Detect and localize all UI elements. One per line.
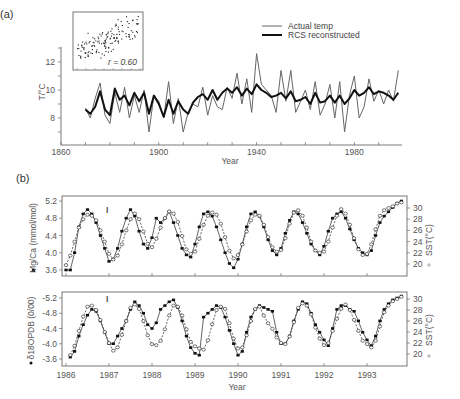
scatter-point: [137, 19, 138, 20]
data-point-filled: [361, 331, 364, 334]
data-point-open: [202, 348, 206, 351]
scatter-point: [129, 23, 130, 24]
data-point-filled: [82, 323, 85, 326]
data-point-filled: [357, 320, 360, 323]
data-point-open: [370, 243, 374, 246]
data-point-filled: [159, 221, 162, 224]
data-point-open: [249, 320, 253, 323]
right-y-tick-label: 26: [413, 225, 423, 235]
data-point-open: [253, 213, 257, 216]
left-y-tick-label: -3.6: [42, 354, 57, 364]
scatter-point: [104, 55, 105, 56]
scatter-point: [92, 49, 93, 50]
data-point-filled: [228, 329, 231, 332]
scatter-point: [81, 51, 82, 52]
scatter-point: [132, 32, 133, 33]
data-point-open: [245, 230, 249, 233]
data-point-filled: [297, 213, 300, 216]
data-point-open: [232, 337, 236, 340]
y-tick-label: 12: [46, 57, 56, 67]
data-point-filled: [331, 217, 334, 220]
panel-b-x-axis-title: Year: [228, 382, 245, 392]
y-tick-label: 8: [50, 113, 55, 123]
scatter-point: [111, 28, 112, 29]
data-point-open: [391, 300, 395, 303]
data-point-filled: [232, 267, 235, 270]
data-point-filled: [383, 308, 386, 311]
scatter-point: [110, 31, 111, 32]
data-point-filled: [185, 254, 188, 257]
data-point-open: [86, 305, 90, 308]
data-point-filled: [340, 304, 343, 307]
data-point-open: [236, 347, 240, 350]
data-point-filled: [211, 215, 214, 218]
data-point-open: [344, 303, 348, 306]
scatter-point: [95, 40, 96, 41]
panel-b-top-right-ylabel: SST(°C): [424, 224, 434, 256]
data-point-open: [335, 317, 339, 320]
data-point-filled: [365, 339, 368, 342]
scatter-point: [107, 36, 108, 37]
scatter-point: [98, 38, 99, 39]
open-circle-marker-icon: [428, 355, 430, 357]
data-point-open: [107, 252, 111, 255]
data-point-open: [129, 218, 133, 221]
panel-b-top-y-axis-title: Mg/Ca (mmol/mol): [28, 203, 38, 273]
scatter-point: [130, 39, 131, 40]
left-y-tick-label: 3.6: [45, 265, 57, 275]
data-point-open: [288, 222, 292, 225]
data-point-filled: [69, 269, 72, 272]
data-point-open: [77, 329, 81, 332]
scatter-point: [85, 53, 86, 54]
data-point-open: [210, 211, 214, 214]
x-tick-label: 1980: [345, 147, 364, 157]
data-point-filled: [193, 243, 196, 246]
scatter-point: [129, 34, 130, 35]
data-point-open: [198, 347, 202, 350]
data-point-open: [352, 237, 356, 240]
data-point-filled: [120, 230, 123, 233]
data-point-open: [180, 314, 184, 317]
data-point-filled: [142, 243, 145, 246]
scatter-point: [126, 16, 127, 17]
data-point-open: [305, 304, 309, 307]
data-point-open: [150, 246, 154, 249]
scatter-point: [106, 38, 107, 39]
x-tick-label: 1988: [143, 370, 162, 380]
data-point-open: [167, 314, 171, 317]
data-point-filled: [138, 230, 141, 233]
data-point-open: [69, 354, 73, 357]
data-point-filled: [181, 247, 184, 250]
data-point-open: [99, 318, 103, 321]
data-point-open: [288, 335, 292, 338]
right-y-tick-label: 28: [413, 305, 423, 315]
scatter-point: [86, 43, 87, 44]
data-point-filled: [206, 211, 209, 214]
data-point-open: [284, 343, 288, 346]
data-point-open: [137, 307, 141, 310]
data-point-open: [120, 333, 124, 336]
data-point-open: [202, 223, 206, 226]
data-point-filled: [107, 260, 110, 263]
panel-b-bottom-series: [69, 295, 404, 359]
data-point-filled: [86, 314, 89, 317]
scatter-point: [108, 48, 109, 49]
data-point-open: [163, 217, 167, 220]
data-point-filled: [219, 239, 222, 242]
data-point-filled: [73, 350, 76, 353]
scatter-point: [104, 46, 105, 47]
data-point-open: [155, 237, 159, 240]
data-point-open: [378, 214, 382, 217]
data-point-filled: [224, 316, 227, 319]
scatter-point: [111, 36, 112, 37]
scatter-point: [122, 31, 123, 32]
data-point-open: [215, 309, 219, 312]
data-point-filled: [353, 310, 356, 313]
scatter-point: [132, 38, 133, 39]
scatter-point: [102, 33, 103, 34]
data-point-open: [86, 213, 90, 216]
scatter-point: [115, 26, 116, 27]
scatter-point: [135, 37, 136, 38]
scatter-point: [111, 51, 112, 52]
right-y-tick-label: 22: [413, 248, 423, 258]
